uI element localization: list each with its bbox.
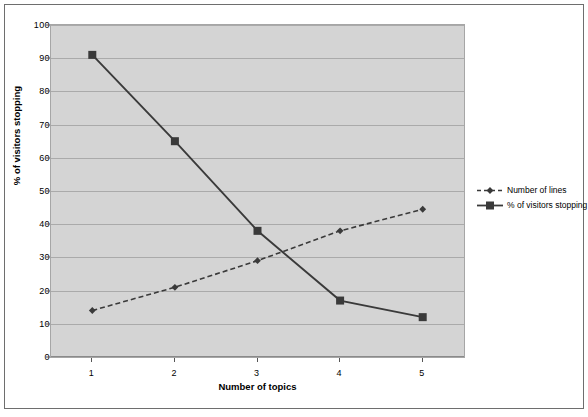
y-axis-title: % of visitors stopping [11, 36, 22, 236]
data-point-diamond [487, 187, 494, 194]
x-tick-mark [339, 358, 340, 362]
y-tick-label: 0 [6, 352, 50, 362]
chart-page: 0102030405060708090100 % of visitors sto… [0, 0, 588, 417]
y-tick-label: 20 [6, 286, 50, 296]
x-tick-mark [422, 358, 423, 362]
x-tick-mark [257, 358, 258, 362]
y-axis: 0102030405060708090100 % of visitors sto… [0, 24, 50, 358]
legend-key-square-icon [477, 200, 503, 211]
data-point-diamond [337, 227, 344, 234]
x-tick-mark [91, 358, 92, 362]
x-axis-title: Number of topics [50, 381, 465, 392]
series-plot [51, 25, 464, 357]
legend-key-diamond-icon [477, 185, 503, 196]
y-tick-label: 100 [6, 20, 50, 30]
data-point-square [171, 137, 179, 145]
data-point-diamond [254, 257, 261, 264]
legend-item: % of visitors stopping [477, 198, 581, 213]
x-tick-label: 2 [154, 368, 194, 378]
chart-legend: Number of lines% of visitors stopping [477, 183, 581, 213]
data-point-square [419, 313, 427, 321]
plot-area [50, 24, 465, 358]
legend-item: Number of lines [477, 183, 581, 198]
x-tick-label: 4 [319, 368, 359, 378]
chart-area: 0102030405060708090100 % of visitors sto… [0, 0, 588, 417]
data-point-diamond [172, 284, 179, 291]
series-line [92, 55, 422, 317]
data-point-square [486, 202, 494, 210]
data-point-square [336, 297, 344, 305]
data-point-diamond [89, 307, 96, 314]
data-point-diamond [419, 206, 426, 213]
data-point-square [88, 51, 96, 59]
x-tick-label: 3 [237, 368, 277, 378]
y-tick-label: 10 [6, 319, 50, 329]
x-tick-label: 1 [71, 368, 111, 378]
x-tick-label: 5 [402, 368, 442, 378]
x-tick-mark [174, 358, 175, 362]
data-point-square [254, 227, 262, 235]
legend-label: % of visitors stopping [507, 200, 587, 211]
legend-label: Number of lines [507, 185, 567, 196]
y-tick-label: 30 [6, 252, 50, 262]
